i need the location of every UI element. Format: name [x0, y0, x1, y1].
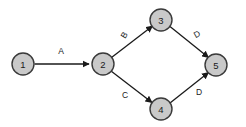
edge-label-d-top: D: [192, 28, 202, 40]
node-2[interactable]: 2: [92, 53, 114, 75]
node-3-label: 3: [158, 15, 163, 26]
node-4-label: 4: [158, 104, 163, 115]
graph-diagram: A B C D D 1 2 3 4: [0, 0, 246, 127]
node-3[interactable]: 3: [150, 9, 172, 31]
edge-label-c: C: [122, 90, 128, 100]
node-1-label: 1: [20, 59, 25, 70]
edge-4-to-5: [170, 73, 209, 104]
node-2-label: 2: [100, 59, 105, 70]
node-5[interactable]: 5: [205, 54, 227, 76]
node-4[interactable]: 4: [150, 98, 172, 120]
edge-3-to-5: [170, 27, 209, 58]
edge-label-b: B: [118, 30, 130, 40]
edge-label-a: A: [58, 46, 64, 56]
edge-2-to-4: [111, 71, 152, 103]
node-5-label: 5: [213, 60, 218, 71]
edge-2-to-3: [112, 26, 153, 58]
edge-label-d-bottom: D: [196, 87, 202, 97]
graph-canvas: A B C D D 1 2 3 4: [0, 0, 246, 127]
node-1[interactable]: 1: [12, 53, 34, 75]
